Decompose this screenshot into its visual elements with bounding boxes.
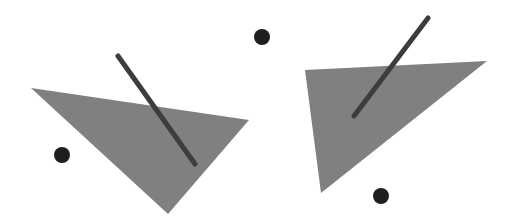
right-dot — [373, 188, 389, 204]
figure-right — [305, 18, 487, 204]
right-triangle — [305, 61, 487, 193]
figure-left — [31, 56, 249, 214]
top-center-dot — [254, 29, 270, 45]
diagram-canvas — [0, 0, 517, 223]
left-dot — [54, 147, 70, 163]
